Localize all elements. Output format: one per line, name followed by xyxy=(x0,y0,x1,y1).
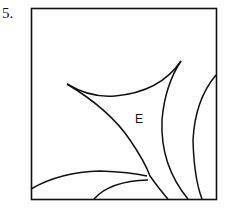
region-diagram: E xyxy=(0,0,228,216)
bounding-square xyxy=(32,9,217,200)
region-top-curve xyxy=(67,61,181,96)
outer-right-arc xyxy=(193,75,216,199)
bottom-left-arc xyxy=(31,171,147,189)
region-label-e: E xyxy=(135,112,143,126)
region-right-arc xyxy=(162,61,188,199)
bottom-small-arc xyxy=(94,180,148,199)
region-left-curve xyxy=(67,84,168,199)
